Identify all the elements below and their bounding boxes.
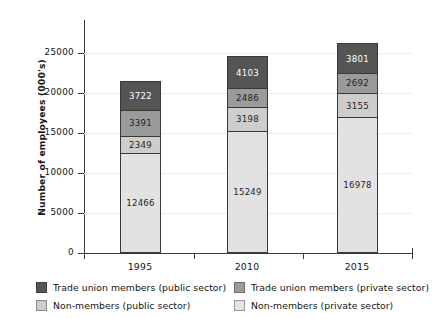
bar-group[interactable]: 37223391234912466 <box>120 81 161 253</box>
bar-segment-value: 4103 <box>236 68 259 78</box>
bar-segment[interactable]: 3801 <box>337 43 378 73</box>
bar-group[interactable]: 38012692315516978 <box>337 43 378 253</box>
bar-segment[interactable]: 2692 <box>337 73 378 95</box>
legend-label: Trade union members (public sector) <box>53 282 226 293</box>
legend-item[interactable]: Non-members (public sector) <box>36 300 234 311</box>
bar-segment-value: 2486 <box>236 93 259 103</box>
legend-label: Non-members (public sector) <box>53 300 190 311</box>
bar-segment-value: 2692 <box>346 78 369 88</box>
x-axis-line <box>84 253 413 254</box>
legend-item[interactable]: Non-members (private sector) <box>234 300 432 311</box>
x-tick-mark <box>84 253 85 259</box>
y-axis-title: Number of employees (000's) <box>36 23 47 253</box>
bar-segment-value: 3155 <box>346 101 369 111</box>
x-tick-label: 1995 <box>110 261 170 272</box>
legend-swatch-icon <box>234 282 245 293</box>
bar-segment-value: 3801 <box>346 54 369 64</box>
bar-segment[interactable]: 3722 <box>120 81 161 111</box>
bar-segment-value: 15249 <box>233 187 262 197</box>
legend-swatch-icon <box>36 300 47 311</box>
bar-segment[interactable]: 12466 <box>120 153 161 253</box>
bar-segment-value: 3391 <box>129 118 152 128</box>
bar-segment[interactable]: 3391 <box>120 110 161 137</box>
bar-segment[interactable]: 16978 <box>337 117 378 253</box>
bar-segment-value: 16978 <box>343 180 372 190</box>
x-tick-label: 2015 <box>327 261 387 272</box>
x-tick-mark <box>303 253 304 259</box>
y-tick-label: 25000 <box>45 47 74 57</box>
x-tick-label: 2010 <box>217 261 277 272</box>
bar-segment-value: 2349 <box>129 140 152 150</box>
bar-segment-value: 12466 <box>126 198 155 208</box>
bar-segment-value: 3722 <box>129 91 152 101</box>
bar-group[interactable]: 41032486319815249 <box>227 56 268 253</box>
plot-area: 3722339123491246641032486319815249380126… <box>84 33 412 253</box>
chart-legend: Trade union members (public sector)Trade… <box>36 278 416 314</box>
bar-segment[interactable]: 4103 <box>227 56 268 89</box>
legend-item[interactable]: Trade union members (private sector) <box>234 282 432 293</box>
bar-segment[interactable]: 3198 <box>227 107 268 133</box>
legend-swatch-icon <box>36 282 47 293</box>
x-tick-mark <box>412 253 413 259</box>
legend-label: Non-members (private sector) <box>251 300 393 311</box>
bar-segment[interactable]: 15249 <box>227 131 268 253</box>
legend-item[interactable]: Trade union members (public sector) <box>36 282 234 293</box>
y-tick-label: 15000 <box>45 127 74 137</box>
y-tick-label: 10000 <box>45 167 74 177</box>
legend-label: Trade union members (private sector) <box>251 282 429 293</box>
bar-segment[interactable]: 2486 <box>227 88 268 108</box>
x-tick-mark <box>194 253 195 259</box>
legend-swatch-icon <box>234 300 245 311</box>
y-tick-label: 5000 <box>50 207 74 217</box>
bar-segment[interactable]: 2349 <box>120 136 161 155</box>
y-tick-label: 20000 <box>45 87 74 97</box>
y-tick-label: 0 <box>68 247 74 257</box>
bar-segment[interactable]: 3155 <box>337 93 378 118</box>
bar-segment-value: 3198 <box>236 114 259 124</box>
